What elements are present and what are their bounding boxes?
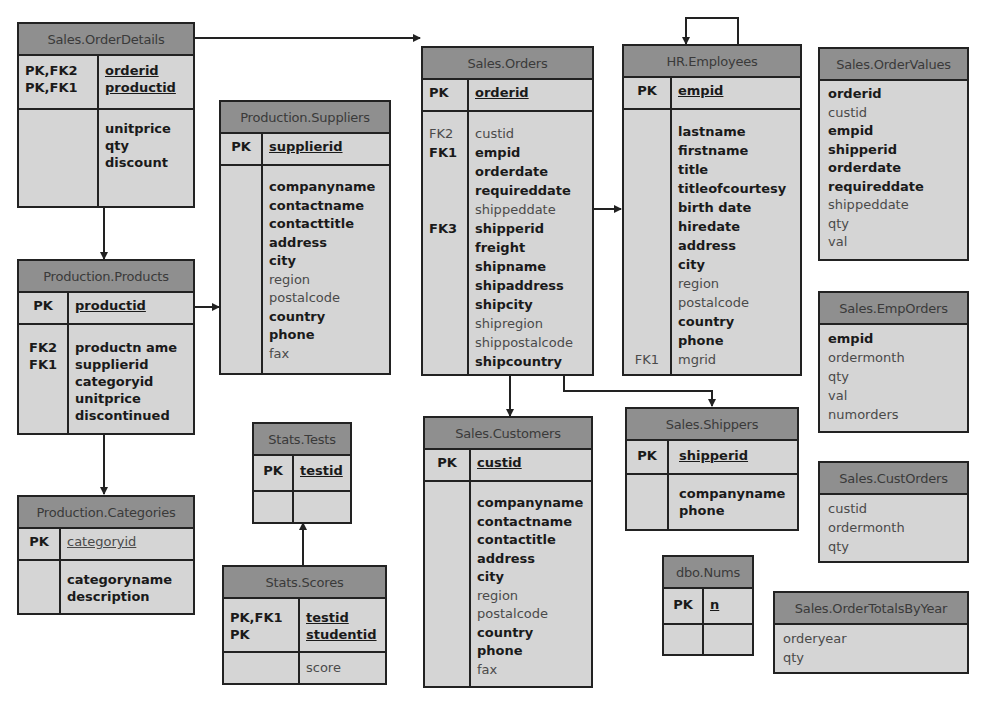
key-column (664, 625, 704, 654)
pk-field: n (710, 596, 746, 613)
pk-field: testid (300, 462, 344, 479)
key-label: PK (431, 454, 463, 471)
table-sales-orders[interactable]: Sales.Orders PK orderid FK2 FK1 FK3 cust… (421, 46, 594, 376)
field: shipregion (475, 314, 586, 333)
pk-section: PK testid (254, 456, 350, 490)
pk-field: testid (306, 609, 379, 626)
field-column: testid studentid (300, 599, 385, 651)
view-sales-custorders[interactable]: Sales.CustOrders custid ordermonth qty (818, 461, 969, 563)
field: phone (678, 331, 794, 350)
key-label: PK (260, 462, 286, 479)
fields-section: FK2 FK1 FK3 custid empid orderdate requi… (423, 110, 592, 374)
field: numorders (828, 405, 959, 424)
fields-section: companyname contactname contacttitle add… (221, 164, 389, 373)
field-column: productn ame supplierid categoryid unitp… (69, 325, 193, 433)
pk-field: categoryid (67, 533, 187, 550)
table-title: Stats.Tests (254, 424, 350, 456)
key-label: FK2 (25, 339, 61, 356)
view-sales-ordertotalsbyyear[interactable]: Sales.OrderTotalsByYear orderyear qty (773, 591, 969, 674)
field: qty (828, 537, 959, 556)
key-column: PK (627, 441, 669, 473)
field: address (477, 550, 585, 569)
field: qty (105, 137, 187, 154)
field: score (306, 659, 379, 676)
key-label: PK,FK2 (25, 62, 91, 79)
field-column: companyname phone (669, 475, 797, 529)
table-title: Production.Suppliers (221, 102, 389, 134)
field: contactname (269, 197, 383, 216)
field-column (294, 492, 350, 522)
field: categoryid (75, 373, 187, 390)
key-column (19, 110, 99, 206)
view-sales-emporders[interactable]: Sales.EmpOrders empid ordermonth qty val… (818, 291, 969, 433)
field: shipperid (828, 141, 959, 160)
field: supplierid (75, 356, 187, 373)
field: qty (783, 648, 959, 667)
field-column: custid empid orderdate requireddate ship… (469, 112, 592, 374)
field: description (67, 588, 187, 605)
field: unitprice (75, 390, 187, 407)
field: hiredate (678, 217, 794, 236)
table-title: Sales.EmpOrders (820, 293, 967, 325)
field: city (678, 255, 794, 274)
field: custid (828, 499, 959, 518)
table-sales-shippers[interactable]: Sales.Shippers PK shipperid companyname … (625, 407, 799, 531)
table-title: Sales.Shippers (627, 409, 797, 441)
key-column: PK (624, 78, 672, 108)
fields-section: unitprice qty discount (19, 108, 193, 206)
key-column: PK (221, 134, 263, 164)
connector-employees-self (686, 18, 738, 46)
table-production-suppliers[interactable]: Production.Suppliers PK supplierid compa… (219, 100, 391, 375)
field-column: orderid productid (99, 56, 193, 108)
field: companyname (269, 178, 383, 197)
field: city (477, 568, 585, 587)
table-stats-scores[interactable]: Stats.Scores PK,FK1 PK testid studentid … (222, 565, 387, 685)
table-sales-customers[interactable]: Sales.Customers PK custid companyname co… (423, 416, 593, 688)
key-column: FK1 (624, 110, 672, 374)
pk-section: PK productid (19, 293, 193, 323)
field: shippeddate (475, 200, 586, 219)
field: address (269, 234, 383, 253)
fields-section: companyname phone (627, 473, 797, 529)
field: requireddate (828, 178, 959, 197)
pk-section: PK,FK2 PK,FK1 orderid productid (19, 56, 193, 108)
table-title: Sales.CustOrders (820, 463, 967, 495)
table-title: Production.Products (19, 261, 193, 293)
table-title: Sales.OrderDetails (19, 24, 193, 56)
pk-section: PK shipperid (627, 441, 797, 473)
table-title: Stats.Scores (224, 567, 385, 599)
field-column: testid (294, 456, 350, 490)
field-column: n (704, 589, 752, 623)
field: requireddate (475, 181, 586, 200)
view-sales-ordervalues[interactable]: Sales.OrderValues orderid custid empid s… (818, 47, 969, 261)
pk-field: orderid (475, 84, 586, 101)
table-sales-orderdetails[interactable]: Sales.OrderDetails PK,FK2 PK,FK1 orderid… (17, 22, 195, 208)
field: discount (105, 154, 187, 171)
table-production-categories[interactable]: Production.Categories PK categoryid cate… (17, 495, 195, 615)
table-title: Production.Categories (19, 497, 193, 529)
pk-field: productid (75, 297, 187, 314)
table-hr-employees[interactable]: HR.Employees PK empid FK1 lastname first… (622, 44, 802, 376)
key-label: PK (633, 447, 661, 464)
key-label: FK1 (624, 351, 670, 368)
key-label: PK (25, 533, 53, 550)
fields-section: orderid custid empid shipperid orderdate… (820, 81, 967, 256)
field: empid (475, 143, 586, 162)
table-production-products[interactable]: Production.Products PK productid FK2 FK1… (17, 259, 195, 435)
key-label: PK (227, 138, 255, 155)
fields-section: empid ordermonth qty val numorders (820, 325, 967, 428)
pk-field: productid (105, 79, 187, 96)
key-column: PK (254, 456, 294, 490)
field: postalcode (477, 605, 585, 624)
field: contactitle (477, 531, 585, 550)
field: address (678, 236, 794, 255)
field: phone (679, 502, 791, 519)
field-column: companyname contactname contacttitle add… (263, 166, 389, 373)
fields-section (254, 490, 350, 522)
field: empid (828, 329, 959, 348)
key-column (19, 561, 61, 613)
field-column: score (300, 653, 385, 683)
field-column: categoryname description (61, 561, 193, 613)
table-stats-tests[interactable]: Stats.Tests PK testid (252, 422, 352, 524)
table-dbo-nums[interactable]: dbo.Nums PK n (662, 555, 754, 656)
